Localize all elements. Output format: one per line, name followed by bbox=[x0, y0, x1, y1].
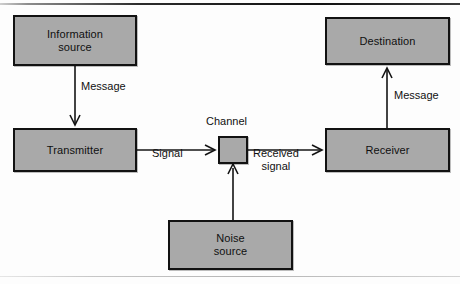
arrowhead-signal bbox=[205, 145, 215, 155]
box-information-source: Information source bbox=[13, 15, 137, 66]
figure-canvas: Information source Transmitter Destinati… bbox=[0, 0, 460, 284]
page-rule-bottom bbox=[0, 276, 460, 277]
arrowhead-message-left bbox=[70, 115, 80, 125]
box-channel bbox=[218, 136, 248, 164]
arrowhead-received-signal bbox=[312, 145, 322, 155]
page-rule-top bbox=[0, 3, 460, 5]
box-noise-source-label: Noise source bbox=[214, 232, 248, 258]
label-signal: Signal bbox=[152, 147, 183, 160]
label-channel: Channel bbox=[206, 115, 247, 128]
label-received-signal: Received signal bbox=[253, 147, 299, 172]
label-message-left: Message bbox=[81, 80, 126, 93]
box-receiver-label: Receiver bbox=[365, 144, 409, 157]
box-receiver: Receiver bbox=[325, 128, 450, 172]
arrowhead-noise bbox=[228, 164, 238, 174]
box-transmitter: Transmitter bbox=[13, 128, 137, 172]
box-information-source-label: Information source bbox=[47, 28, 103, 54]
box-noise-source: Noise source bbox=[168, 220, 293, 270]
label-message-right: Message bbox=[394, 89, 439, 102]
box-transmitter-label: Transmitter bbox=[47, 144, 103, 157]
arrowhead-message-right bbox=[382, 68, 392, 78]
box-destination-label: Destination bbox=[359, 35, 415, 48]
box-destination: Destination bbox=[325, 17, 450, 65]
